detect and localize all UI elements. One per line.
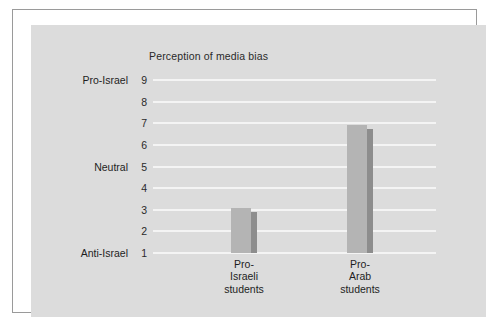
x-axis-category-label: Pro-Arabstudents — [300, 258, 420, 295]
chart-title: Perception of media bias — [149, 50, 268, 62]
gridline — [153, 79, 436, 81]
y-axis-tick-label: 7 — [135, 117, 147, 129]
x-axis-label-line: Arab — [300, 270, 420, 282]
y-axis-tick-label: 4 — [135, 182, 147, 194]
plot-area — [153, 80, 436, 253]
gridline — [153, 209, 436, 211]
x-axis-label-line: students — [300, 283, 420, 295]
gridline — [153, 252, 436, 254]
x-axis-label-line: Pro- — [300, 258, 420, 270]
y-axis-tick-label: 5 — [135, 161, 147, 173]
bar-shadow — [251, 212, 257, 253]
gridline — [153, 101, 436, 103]
bar-face — [347, 125, 367, 253]
gridline — [153, 122, 436, 124]
x-axis-label-line: Pro- — [184, 258, 304, 270]
gridline — [153, 166, 436, 168]
gridline — [153, 187, 436, 189]
y-axis-tick-label: 1 — [135, 247, 147, 259]
y-axis-tick-label: 8 — [135, 96, 147, 108]
x-axis-category-label: Pro-Israelistudents — [184, 258, 304, 295]
y-axis-category-label: Neutral — [33, 161, 128, 173]
y-axis-tick-label: 2 — [135, 225, 147, 237]
bar-face — [231, 208, 251, 253]
gridline — [153, 230, 436, 232]
x-axis-label-line: students — [184, 283, 304, 295]
y-axis-tick-label: 6 — [135, 139, 147, 151]
bar — [231, 208, 257, 253]
figure-frame: Perception of media bias 987654321Pro-Is… — [12, 9, 477, 313]
y-axis-tick-label: 9 — [135, 74, 147, 86]
bar — [347, 125, 373, 253]
bar-shadow — [367, 129, 373, 253]
y-axis-category-label: Anti-Israel — [33, 247, 128, 259]
figure-root: Perception of media bias 987654321Pro-Is… — [0, 0, 491, 323]
y-axis-tick-label: 3 — [135, 204, 147, 216]
y-axis-category-label: Pro-Israel — [33, 74, 128, 86]
x-axis-label-line: Israeli — [184, 270, 304, 282]
gridline — [153, 144, 436, 146]
